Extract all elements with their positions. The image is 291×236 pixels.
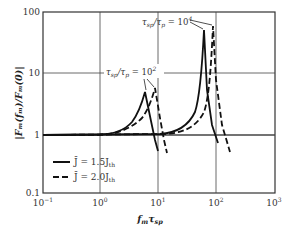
x-tick-1e1: 101 (150, 196, 165, 208)
curve-solid-1e2 (43, 92, 158, 151)
y-tick-10: 10 (29, 68, 41, 78)
y-axis-ticks: 100 10 1 0.1 (23, 7, 40, 198)
x-tick-1e-1: 10−1 (33, 196, 53, 208)
legend: J̄ = 1.5Jth J̄ = 2.0Jth (53, 156, 115, 183)
x-tick-1e0: 100 (92, 196, 107, 208)
frequency-response-chart: 100 10 1 0.1 10−1 100 101 102 103 fmτsp … (0, 0, 291, 236)
annotation-ratio-1e4: τsp/τp = 104 (142, 15, 212, 29)
curves-ratio-1e2 (43, 88, 167, 153)
y-tick-100: 100 (23, 7, 40, 17)
annotation-arrow (147, 79, 154, 87)
curve-dashed-1e2 (43, 88, 167, 153)
annotation-arrow (190, 22, 203, 29)
y-axis-title: |Fₘ(fₘ)/Fₘ(0)| (13, 66, 25, 139)
x-axis-title: fmτsp (136, 213, 163, 226)
curves-ratio-1e4 (43, 26, 230, 152)
legend-solid-label: J̄ = 1.5Jth (73, 156, 115, 168)
y-tick-0.1: 0.1 (26, 188, 40, 198)
annotation-arrow (144, 79, 146, 90)
annotation-ratio-1e2: τsp/τp = 102 (104, 64, 164, 90)
legend-dashed-label: J̄ = 2.0Jth (73, 171, 115, 183)
x-axis-ticks: 10−1 100 101 102 103 (33, 196, 282, 208)
annotation-label-1e4: τsp/τp = 104 (142, 15, 192, 29)
y-tick-1: 1 (34, 130, 40, 140)
annotation-arrow (190, 20, 212, 25)
x-tick-1e2: 102 (208, 196, 223, 208)
x-tick-1e3: 103 (266, 196, 281, 208)
curve-dashed-1e4 (43, 26, 230, 152)
curve-solid-1e4 (43, 30, 218, 143)
